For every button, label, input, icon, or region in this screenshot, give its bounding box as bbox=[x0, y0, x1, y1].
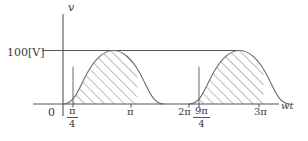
x-axis-label: wt bbox=[281, 101, 294, 111]
shaded-region-1 bbox=[63, 51, 164, 105]
waveform-chart: v wt 100[V] 0 π 4 π 2π 9π 4 3π bbox=[0, 0, 308, 141]
fraction-numerator: π bbox=[67, 106, 78, 116]
y-value-label-100v: 100[V] bbox=[7, 47, 45, 58]
fraction-denominator: 4 bbox=[67, 119, 78, 129]
chart-canvas bbox=[0, 0, 308, 141]
x-tick-label-9pi-over-4: 9π 4 bbox=[193, 106, 210, 129]
x-tick-label-3pi: 3π bbox=[254, 107, 267, 117]
x-tick-label-origin: 0 bbox=[48, 107, 55, 118]
x-tick-label-2pi: 2π bbox=[178, 107, 191, 117]
x-tick-label-pi-over-4: π 4 bbox=[67, 106, 78, 129]
shaded-region-2 bbox=[189, 51, 290, 105]
fraction-denominator: 4 bbox=[193, 119, 210, 129]
x-tick-label-pi: π bbox=[127, 107, 134, 117]
y-axis-label: v bbox=[68, 2, 74, 13]
fraction-numerator: 9π bbox=[193, 106, 210, 116]
